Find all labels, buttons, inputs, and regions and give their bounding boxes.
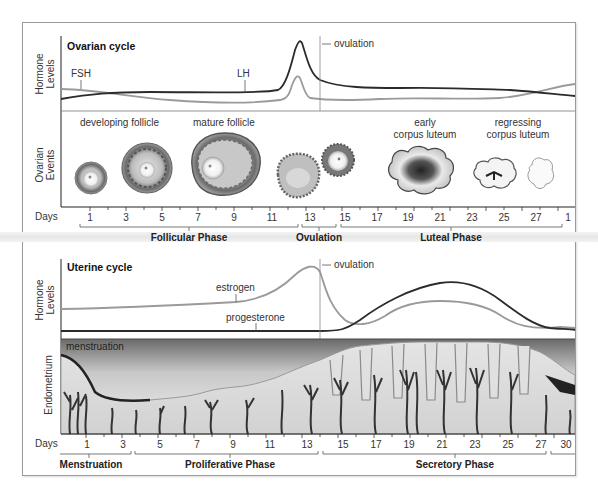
svg-text:1: 1 xyxy=(87,212,93,223)
developing-follicle-small xyxy=(75,162,107,194)
secretory-phase-label: Secretory Phase xyxy=(416,459,495,470)
svg-text:Hormone: Hormone xyxy=(34,53,45,95)
endometrium-illustration: menstruation xyxy=(61,339,575,434)
estrogen-label: estrogen xyxy=(216,282,255,293)
uterine-phase-brackets xyxy=(60,451,575,458)
svg-text:25: 25 xyxy=(498,212,510,223)
uterine-title: Uterine cycle xyxy=(67,261,133,273)
ovarian-day-ticks xyxy=(90,207,558,211)
ovarian-title: Ovarian cycle xyxy=(67,40,135,52)
svg-text:9: 9 xyxy=(230,439,236,450)
mature-follicle xyxy=(192,133,260,195)
svg-text:1: 1 xyxy=(565,212,571,223)
svg-text:5: 5 xyxy=(159,212,165,223)
estrogen-curve xyxy=(61,267,575,328)
svg-text:27: 27 xyxy=(535,439,547,450)
svg-text:Ovarian: Ovarian xyxy=(34,147,45,182)
uterine-day-numbers: 1 3 5 7 9 11 13 15 17 19 21 23 25 27 30 xyxy=(84,439,572,450)
ovarian-hormone-ylabel: Hormone Levels xyxy=(34,53,56,95)
svg-text:27: 27 xyxy=(530,212,542,223)
svg-text:11: 11 xyxy=(267,212,278,223)
lh-curve xyxy=(61,41,575,99)
svg-text:17: 17 xyxy=(371,212,383,223)
released-oocyte xyxy=(322,144,354,176)
follicular-phase-label: Follicular Phase xyxy=(151,232,228,243)
svg-text:Levels: Levels xyxy=(45,60,56,89)
svg-text:11: 11 xyxy=(265,439,276,450)
ovarian-ovulation-label: ovulation xyxy=(334,38,374,49)
svg-text:13: 13 xyxy=(301,439,313,450)
uterine-hormone-ylabel: Hormone Levels xyxy=(34,279,56,321)
svg-text:3: 3 xyxy=(123,212,129,223)
svg-text:21: 21 xyxy=(434,212,446,223)
svg-text:17: 17 xyxy=(370,439,382,450)
ovulation-phase-label: Ovulation xyxy=(296,232,342,243)
svg-text:15: 15 xyxy=(337,439,349,450)
early-corpus-luteum xyxy=(389,146,454,193)
svg-text:5: 5 xyxy=(157,439,163,450)
svg-text:15: 15 xyxy=(339,212,351,223)
developing-follicle-large xyxy=(122,143,172,193)
early-corpus-luteum-label-1: early xyxy=(414,117,436,128)
svg-text:7: 7 xyxy=(195,212,201,223)
uterine-days-label: Days xyxy=(35,438,58,449)
regressing-corpus-luteum-label-1: regressing xyxy=(495,117,542,128)
svg-text:Hormone: Hormone xyxy=(34,279,45,321)
ovarian-phase-brackets xyxy=(80,224,562,231)
svg-text:Levels: Levels xyxy=(45,286,56,315)
svg-text:Events: Events xyxy=(45,150,56,181)
developing-follicle-label: developing follicle xyxy=(80,117,159,128)
proliferative-phase-label: Proliferative Phase xyxy=(185,459,275,470)
svg-text:13: 13 xyxy=(304,212,316,223)
ovarian-days-label: Days xyxy=(35,211,58,222)
svg-text:19: 19 xyxy=(403,439,415,450)
lh-label: LH xyxy=(237,68,250,79)
ruptured-follicle xyxy=(278,154,319,198)
luteal-phase-label: Luteal Phase xyxy=(420,232,482,243)
early-corpus-luteum-label-2: corpus luteum xyxy=(394,129,457,140)
progesterone-label: progesterone xyxy=(226,312,285,323)
ovarian-events-ylabel: Ovarian Events xyxy=(34,147,56,182)
corpus-albicans xyxy=(528,158,554,189)
ovarian-day-numbers: 1 3 5 7 9 11 13 15 17 19 21 23 25 27 1 xyxy=(87,212,571,223)
svg-text:25: 25 xyxy=(502,439,514,450)
svg-text:7: 7 xyxy=(194,439,200,450)
menstrual-cycle-diagram: Ovarian cycle Hormone Levels Ovarian Eve… xyxy=(0,0,598,490)
uterine-ovulation-label: ovulation xyxy=(334,259,374,270)
mature-follicle-label: mature follicle xyxy=(193,117,255,128)
menstruation-label: menstruation xyxy=(66,341,124,352)
regressing-corpus-luteum-label-2: corpus luteum xyxy=(487,129,550,140)
svg-text:1: 1 xyxy=(84,439,90,450)
menstruation-phase-label: Menstruation xyxy=(60,459,123,470)
endometrium-ylabel: Endometrium xyxy=(43,355,54,414)
fsh-label: FSH xyxy=(71,68,91,79)
svg-text:23: 23 xyxy=(469,439,481,450)
svg-text:30: 30 xyxy=(560,439,572,450)
svg-text:19: 19 xyxy=(402,212,414,223)
svg-text:23: 23 xyxy=(466,212,478,223)
svg-text:9: 9 xyxy=(231,212,237,223)
svg-text:3: 3 xyxy=(120,439,126,450)
regressing-corpus-luteum xyxy=(474,158,516,188)
svg-text:21: 21 xyxy=(436,439,448,450)
